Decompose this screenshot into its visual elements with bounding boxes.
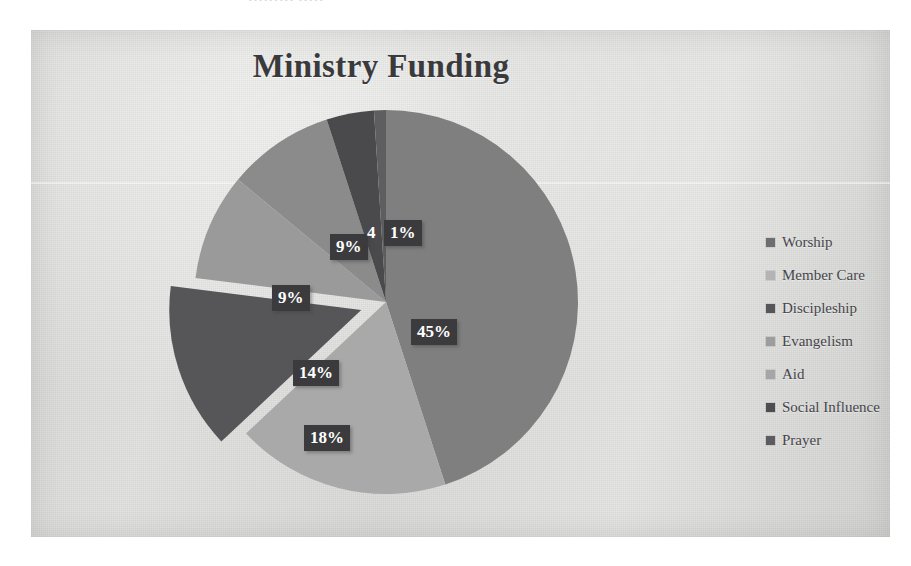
legend-item-label: Prayer	[782, 432, 821, 449]
legend-item-discipleship[interactable]: Discipleship	[766, 292, 880, 325]
legend-item-label: Aid	[782, 366, 805, 383]
data-label-evangelism: 9%	[272, 285, 310, 311]
pie-chart	[186, 102, 586, 502]
legend-item-label: Member Care	[782, 267, 865, 284]
data-label-prayer: 1%	[384, 220, 422, 246]
legend-item-prayer[interactable]: Prayer	[766, 424, 880, 457]
legend-square-marker	[766, 370, 775, 379]
pie-slice-group	[169, 110, 578, 494]
scan-text-fragment: ••••••••• •••••	[248, 0, 468, 5]
chart-legend: WorshipMember CareDiscipleshipEvangelism…	[766, 226, 880, 457]
data-label-worship: 45%	[411, 319, 457, 345]
data-label-member-care: 18%	[304, 425, 350, 451]
chart-canvas: Ministry Funding 45% 18% 14% 9% 9% 4 1% …	[31, 30, 890, 537]
legend-square-marker	[766, 337, 775, 346]
legend-item-label: Evangelism	[782, 333, 853, 350]
legend-square-marker	[766, 436, 775, 445]
legend-item-evangelism[interactable]: Evangelism	[766, 325, 880, 358]
legend-item-label: Discipleship	[782, 300, 857, 317]
legend-square-marker	[766, 403, 775, 412]
data-label-discipleship: 14%	[293, 360, 339, 386]
legend-square-marker	[766, 304, 775, 313]
chart-title: Ministry Funding	[31, 48, 731, 85]
legend-square-marker	[766, 238, 775, 247]
legend-item-social-influence[interactable]: Social Influence	[766, 391, 880, 424]
legend-item-label: Social Influence	[782, 399, 880, 416]
legend-item-aid[interactable]: Aid	[766, 358, 880, 391]
legend-square-marker	[766, 271, 775, 280]
legend-item-label: Worship	[782, 234, 832, 251]
legend-item-worship[interactable]: Worship	[766, 226, 880, 259]
data-label-social-influence: 4	[361, 220, 382, 246]
legend-item-member-care[interactable]: Member Care	[766, 259, 880, 292]
